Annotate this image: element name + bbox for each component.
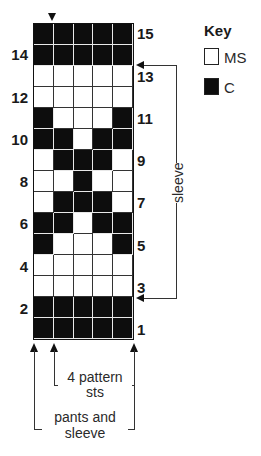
sleeve-top-arrow-icon [136, 61, 144, 69]
grid-cell-r12-c3 [74, 87, 94, 108]
grid-cell-r6-c3 [74, 213, 94, 234]
grid-cell-r4-c1 [34, 255, 54, 276]
grid-cell-r7-c4 [93, 192, 113, 213]
grid-cell-r4-c4 [93, 255, 113, 276]
grid-cell-r6-c4 [93, 213, 113, 234]
grid-cell-r14-c2 [54, 45, 74, 66]
grid-cell-r10-c3 [74, 129, 94, 150]
grid-cell-r2-c5 [113, 297, 133, 318]
grid-cell-r14-c1 [34, 45, 54, 66]
row-label-3: 3 [137, 280, 145, 295]
right-bracket [134, 350, 135, 430]
grid-cell-r15-c2 [54, 24, 74, 45]
grid-cell-r11-c5 [113, 108, 133, 129]
grid-cell-r12-c5 [113, 87, 133, 108]
grid-cell-r1-c4 [93, 318, 113, 339]
row-label-4: 4 [2, 259, 28, 274]
grid-cell-r9-c1 [34, 150, 54, 171]
grid-cell-r10-c5 [113, 129, 133, 150]
grid-cell-r1-c1 [34, 318, 54, 339]
grid-cell-r13-c3 [74, 66, 94, 87]
grid-cell-r12-c1 [34, 87, 54, 108]
grid-cell-r2-c2 [54, 297, 74, 318]
grid-cell-r15-c1 [34, 24, 54, 45]
grid-cell-r14-c5 [113, 45, 133, 66]
grid-cell-r15-c5 [113, 24, 133, 45]
sleeve-bracket-bottom [143, 298, 176, 299]
grid-cell-r15-c4 [93, 24, 113, 45]
top-center-marker-icon [48, 13, 56, 21]
sleeve-bottom-arrow-icon [136, 294, 144, 302]
pattern-sts-label-line2: sts [58, 385, 132, 400]
row-label-11: 11 [137, 111, 153, 126]
grid-cell-r4-c5 [113, 255, 133, 276]
grid-cell-r7-c1 [34, 192, 54, 213]
pants-sleeve-label-line2: sleeve [42, 426, 128, 441]
grid-cell-r9-c2 [54, 150, 74, 171]
grid-cell-r9-c4 [93, 150, 113, 171]
grid-cell-r8-c4 [93, 171, 113, 192]
grid-cell-r9-c3 [74, 150, 94, 171]
pants-sleeve-label-line1: pants and [42, 410, 128, 425]
grid-cell-r11-c3 [74, 108, 94, 129]
row-label-6: 6 [2, 216, 28, 231]
grid-cell-r3-c2 [54, 276, 74, 297]
grid-cell-r5-c2 [54, 234, 74, 255]
grid-cell-r4-c3 [74, 255, 94, 276]
grid-cell-r8-c1 [34, 171, 54, 192]
grid-cell-r10-c4 [93, 129, 113, 150]
row-label-7: 7 [137, 195, 145, 210]
grid-cell-r10-c2 [54, 129, 74, 150]
grid-cell-r8-c2 [54, 171, 74, 192]
key-ms-label: MS [224, 49, 247, 66]
pattern-sts-label-line1: 4 pattern [58, 370, 132, 385]
grid-cell-r1-c5 [113, 318, 133, 339]
grid-cell-r14-c4 [93, 45, 113, 66]
grid-cell-r4-c2 [54, 255, 74, 276]
row-label-15: 15 [137, 26, 154, 41]
grid-cell-r8-c3 [74, 171, 94, 192]
key-c-label: C [224, 79, 235, 96]
row-label-14: 14 [2, 47, 28, 62]
grid-cell-r13-c5 [113, 66, 133, 87]
key-title: Key [204, 22, 232, 39]
row-label-9: 9 [137, 153, 145, 168]
grid-cell-r3-c4 [93, 276, 113, 297]
row-label-2: 2 [2, 301, 28, 316]
grid-cell-r6-c5 [113, 213, 133, 234]
grid-cell-r11-c1 [34, 108, 54, 129]
grid-cell-r14-c3 [74, 45, 94, 66]
grid-cell-r9-c5 [113, 150, 133, 171]
grid-cell-r7-c5 [113, 192, 133, 213]
pants-sleeve-bracket-left [34, 350, 35, 430]
row-label-8: 8 [2, 174, 28, 189]
grid-cell-r3-c3 [74, 276, 94, 297]
grid-cell-r1-c3 [74, 318, 94, 339]
grid-cell-r7-c3 [74, 192, 94, 213]
row-label-12: 12 [2, 90, 28, 105]
grid-cell-r3-c5 [113, 276, 133, 297]
grid-cell-r5-c5 [113, 234, 133, 255]
grid-cell-r6-c2 [54, 213, 74, 234]
grid-cell-r11-c4 [93, 108, 113, 129]
sleeve-label: sleeve [171, 163, 185, 203]
grid-cell-r11-c2 [54, 108, 74, 129]
sleeve-bracket-top [143, 65, 176, 66]
grid-cell-r5-c4 [93, 234, 113, 255]
grid-cell-r3-c1 [34, 276, 54, 297]
pattern-grid [33, 23, 134, 340]
grid-cell-r10-c1 [34, 129, 54, 150]
grid-cell-r12-c2 [54, 87, 74, 108]
pattern-sts-bracket-left [54, 350, 55, 386]
grid-cell-r15-c3 [74, 24, 94, 45]
row-label-10: 10 [2, 132, 28, 147]
grid-cell-r5-c3 [74, 234, 94, 255]
grid-cell-r2-c4 [93, 297, 113, 318]
pants-sleeve-bracket-left-foot [34, 429, 42, 430]
grid-cell-r13-c2 [54, 66, 74, 87]
grid-cell-r13-c4 [93, 66, 113, 87]
key-ms-swatch-icon [204, 48, 219, 65]
row-label-5: 5 [137, 238, 145, 253]
grid-cell-r6-c1 [34, 213, 54, 234]
grid-cell-r13-c1 [34, 66, 54, 87]
